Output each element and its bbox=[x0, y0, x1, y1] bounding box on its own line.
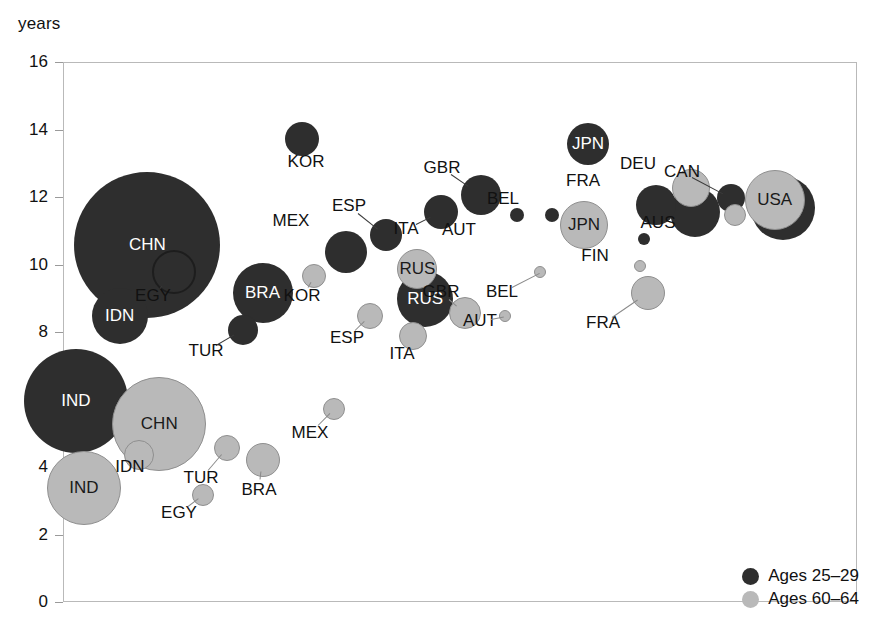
bubble-deu-old bbox=[672, 169, 710, 207]
bubble-kor-old bbox=[302, 264, 326, 288]
bubble-jpn-old bbox=[560, 201, 608, 249]
bubble-callout-label-esp-young: ESP bbox=[332, 196, 366, 216]
legend-item-old: Ages 60–64 bbox=[742, 589, 859, 609]
bubble-tur-young bbox=[228, 315, 258, 345]
bubble-bra-young bbox=[233, 263, 293, 323]
bubble-bra-old bbox=[246, 443, 280, 477]
bubble-kor-young bbox=[285, 122, 319, 156]
bubble-aus-old bbox=[724, 204, 746, 226]
bubble-jpn-young bbox=[567, 123, 609, 165]
plot-area: INDCHNIDNBRARUSUSAINDCHNUSAJPNRUSJPNEGYT… bbox=[63, 62, 857, 602]
bubble-egy-old bbox=[192, 484, 214, 506]
bubble-usa-old bbox=[745, 170, 805, 230]
legend-label-young: Ages 25–29 bbox=[768, 566, 859, 586]
legend-label-old: Ages 60–64 bbox=[768, 589, 859, 609]
bubble-callout-label-gbr-young: GBR bbox=[424, 158, 461, 178]
leader-line-tur-old bbox=[208, 454, 222, 470]
y-axis-tick-label: 4 bbox=[8, 457, 48, 477]
y-axis-tick-mark bbox=[55, 197, 63, 198]
legend-swatch-young-icon bbox=[742, 568, 759, 585]
bubble-callout-label-bra-old: BRA bbox=[242, 480, 277, 500]
bubble-bel-young bbox=[545, 208, 559, 222]
y-axis-tick-mark bbox=[55, 62, 63, 63]
bubble-callout-label-mex-young: MEX bbox=[273, 211, 310, 231]
bubble-callout-label-egy-old: EGY bbox=[161, 503, 197, 523]
bubble-callout-label-fin-young: FIN bbox=[581, 246, 608, 266]
y-axis-tick-label: 16 bbox=[8, 52, 48, 72]
bubble-chart-figure: years 0246810121416 INDCHNIDNBRARUSUSAIN… bbox=[0, 0, 871, 623]
y-axis-unit-label: years bbox=[18, 14, 61, 34]
bubble-fra-young bbox=[636, 185, 676, 225]
y-axis-tick-mark bbox=[55, 332, 63, 333]
y-axis-tick-mark bbox=[55, 535, 63, 536]
bubble-ind-young bbox=[24, 349, 128, 453]
bubble-ita-young bbox=[424, 195, 458, 229]
bubble-chn-young bbox=[74, 172, 220, 318]
legend-swatch-old-icon bbox=[742, 591, 759, 608]
legend-item-young: Ages 25–29 bbox=[742, 566, 859, 586]
bubble-callout-label-deu-young: DEU bbox=[620, 154, 656, 174]
y-axis-tick-mark bbox=[55, 265, 63, 266]
bubble-egy-young bbox=[152, 250, 196, 294]
y-axis-tick-label: 8 bbox=[8, 322, 48, 342]
y-axis-tick-label: 14 bbox=[8, 120, 48, 140]
bubble-esp-young bbox=[370, 219, 402, 251]
leader-line-bel-old bbox=[512, 273, 540, 288]
bubble-ita-old bbox=[399, 322, 427, 350]
bubble-bel-old bbox=[534, 266, 546, 278]
legend: Ages 25–29 Ages 60–64 bbox=[742, 566, 859, 609]
bubble-callout-label-mex-old: MEX bbox=[292, 423, 329, 443]
leader-line-mex-old bbox=[317, 413, 330, 426]
y-axis-tick-label: 2 bbox=[8, 525, 48, 545]
leader-line-fra-old bbox=[612, 299, 638, 317]
bubble-fra-old bbox=[631, 276, 665, 310]
y-axis-tick-mark bbox=[55, 602, 63, 603]
y-axis-tick-mark bbox=[55, 130, 63, 131]
bubble-rus-old bbox=[397, 249, 437, 289]
bubble-callout-label-esp-old: ESP bbox=[330, 328, 364, 348]
bubble-gbr-old bbox=[449, 297, 481, 329]
bubble-fin-young bbox=[638, 233, 650, 245]
bubble-fin-old bbox=[634, 260, 646, 272]
bubble-gbr-young bbox=[461, 175, 501, 215]
bubble-idn-old bbox=[124, 440, 154, 470]
y-axis-tick-label: 0 bbox=[8, 592, 48, 612]
leader-line-esp-young bbox=[357, 213, 377, 229]
bubble-callout-label-fra-young: FRA bbox=[566, 171, 600, 191]
y-axis-tick-label: 10 bbox=[8, 255, 48, 275]
bubble-idn-young bbox=[92, 288, 148, 344]
bubble-ind-old bbox=[47, 451, 121, 525]
y-axis-tick-label: 12 bbox=[8, 187, 48, 207]
bubble-mex-young bbox=[325, 231, 367, 273]
bubble-aut-young bbox=[510, 208, 524, 222]
